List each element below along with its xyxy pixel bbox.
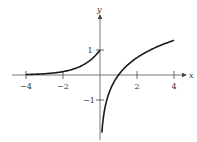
x-tick-label-neg4: −4: [20, 82, 32, 91]
x-tick-label-2: 2: [134, 82, 139, 91]
x-tick-label-4: 4: [171, 82, 176, 91]
y-tick-label-1: 1: [87, 46, 92, 55]
x-axis-label: x: [189, 71, 194, 80]
y-tick-label-neg1: −1: [83, 96, 95, 105]
y-axis-label: y: [96, 5, 102, 14]
function-graph: −4 −2 2 4 1 −1 x y: [0, 0, 197, 142]
x-tick-label-neg2: −2: [57, 82, 69, 91]
